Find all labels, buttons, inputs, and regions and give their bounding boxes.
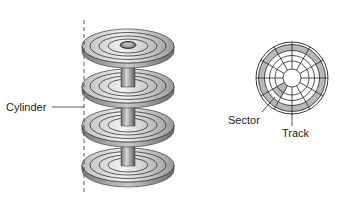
disk-geometry-diagram: Cylinder Sector <box>0 0 348 201</box>
track-sector-diagram <box>256 42 328 114</box>
sector-label: Sector <box>228 114 260 126</box>
track-label: Track <box>282 127 310 139</box>
platter-1 <box>82 29 174 68</box>
platter-stack <box>82 29 174 187</box>
cylinder-label: Cylinder <box>6 101 47 113</box>
